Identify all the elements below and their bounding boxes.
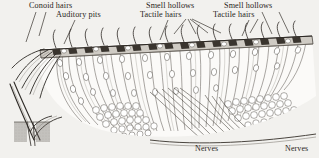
engraving-plate	[0, 0, 319, 158]
label-smell-hollows-right: Smell hollows	[224, 1, 272, 10]
label-nerves-right: Nerves	[285, 144, 308, 153]
label-nerves-left: Nerves	[195, 144, 218, 153]
label-tactile-hairs-left: Tactile hairs	[140, 10, 181, 19]
engraving-figure: Conoid hairs Auditory pits Smell hollows…	[0, 0, 319, 158]
label-smell-hollows-left: Smell hollows	[146, 1, 194, 10]
label-conoid-hairs: Conoid hairs	[29, 1, 72, 10]
label-auditory-pits: Auditory pits	[56, 10, 101, 19]
label-tactile-hairs-right: Tactile hairs	[213, 10, 254, 19]
